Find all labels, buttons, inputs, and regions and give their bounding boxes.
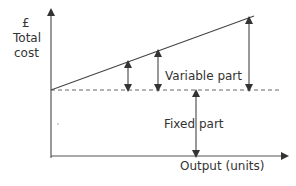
variable-part-label: Variable part <box>165 70 242 83</box>
y-axis-label-line2: cost <box>14 47 39 60</box>
y-axis-currency: £ <box>22 17 30 30</box>
x-axis-label: Output (units) <box>180 160 264 173</box>
stray-dot <box>57 123 58 124</box>
y-axis-label-line1: Total <box>13 32 41 45</box>
fixed-part-label: Fixed part <box>164 118 224 131</box>
